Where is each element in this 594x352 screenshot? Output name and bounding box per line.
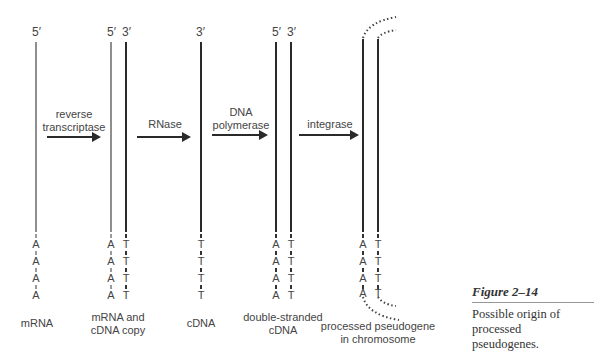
stage-label-pseudogene: processed pseudogene in chromosome [318,320,438,346]
stage-label-line1: processed pseudogene [318,320,438,333]
stage-label-line2: in chromosome [318,333,438,346]
caption-line2: pseudogenes. [472,337,594,352]
chromosome-strand [377,39,379,232]
base-t: T [373,239,383,250]
base-t: T [373,273,383,284]
figure-title: Figure 2–14 [472,284,538,300]
base-t: T [373,288,383,299]
base-a: A [358,288,368,299]
base-a: A [358,273,368,284]
caption-divider [472,302,594,303]
base-t: T [373,256,383,267]
chromosome-strand [362,39,364,232]
figure-caption: Possible origin of processed pseudogenes… [472,307,594,352]
caption-line1: Possible origin of processed [472,307,594,337]
base-a: A [358,256,368,267]
base-a: A [358,239,368,250]
